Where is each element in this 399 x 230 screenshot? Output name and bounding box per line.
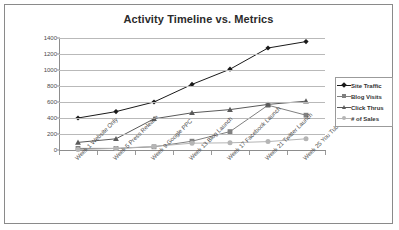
gridline xyxy=(59,118,325,119)
legend-item-label: Site Traffic xyxy=(351,83,382,89)
y-axis-tick-label: 200 xyxy=(31,131,57,137)
y-axis-tick-label: 800 xyxy=(31,83,57,89)
y-axis-tick-group: 0200400600800100012001400 xyxy=(27,38,57,151)
y-axis-tick-label: 1400 xyxy=(31,35,57,41)
data-point-marker xyxy=(152,144,157,149)
y-axis-tick-label: 600 xyxy=(31,99,57,105)
chart-legend: Site TrafficBlog VisitsClick Thrus# of S… xyxy=(335,77,393,127)
gridline xyxy=(59,70,325,71)
data-point-marker xyxy=(303,39,308,44)
legend-marker-icon xyxy=(337,103,351,112)
legend-item[interactable]: # of Sales xyxy=(337,113,390,124)
x-axis-label-group: Week 1 Website OnlyWeek 5 Press ReleaseW… xyxy=(5,155,392,223)
y-axis-tick-label: 0 xyxy=(31,147,57,153)
legend-item-label: Blog Visits xyxy=(351,94,382,100)
legend-item[interactable]: Blog Visits xyxy=(337,91,390,102)
gridline xyxy=(59,38,325,39)
chart-title: Activity Timeline vs. Metrics xyxy=(5,13,392,25)
legend-marker-icon xyxy=(337,92,351,101)
y-axis-tick-label: 1200 xyxy=(31,51,57,57)
gridline xyxy=(59,102,325,103)
legend-item-label: # of Sales xyxy=(351,116,379,122)
y-axis-tick-label: 400 xyxy=(31,115,57,121)
data-point-marker xyxy=(266,139,271,144)
data-point-marker xyxy=(190,141,195,146)
data-point-marker xyxy=(228,140,233,145)
legend-item[interactable]: Click Thrus xyxy=(337,102,390,113)
data-point-marker xyxy=(304,136,309,141)
data-point-marker xyxy=(265,45,270,50)
chart-frame: Activity Timeline vs. Metrics 0200400600… xyxy=(4,4,393,224)
legend-item-label: Click Thrus xyxy=(351,105,384,111)
legend-item[interactable]: Site Traffic xyxy=(337,80,390,91)
data-point-marker xyxy=(113,109,118,114)
legend-marker-icon xyxy=(337,114,351,123)
y-axis-tick-label: 1000 xyxy=(31,67,57,73)
gridline xyxy=(59,86,325,87)
gridline xyxy=(59,54,325,55)
legend-marker-icon xyxy=(337,81,351,90)
